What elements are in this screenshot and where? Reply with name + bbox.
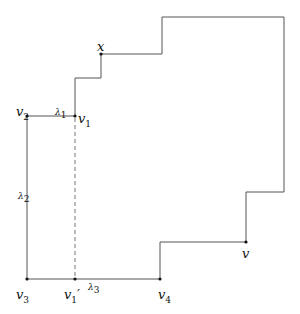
- vertex-v1prime-dot: [73, 277, 76, 280]
- label-v4: v4: [158, 288, 171, 305]
- label-v2: v2: [16, 105, 29, 122]
- label-v1-prime: v1′: [64, 288, 80, 305]
- vertex-v4-dot: [158, 277, 161, 280]
- label-v1: v1: [78, 112, 91, 129]
- vertex-v-dot: [244, 240, 247, 243]
- label-lambda2: λ2: [18, 192, 29, 204]
- vertex-v1-dot: [73, 114, 76, 117]
- label-x: x: [97, 40, 104, 53]
- staircase-boundary: [75, 17, 284, 279]
- diagram-canvas: x v1 v2 λ1 λ2 λ3 v3 v1′ v4 v: [0, 0, 300, 314]
- vertex-v3-dot: [25, 277, 28, 280]
- label-lambda3: λ3: [88, 283, 99, 295]
- label-v: v: [242, 247, 249, 260]
- label-v3: v3: [16, 288, 29, 305]
- staircase-polygon-diagram: [0, 0, 300, 314]
- label-lambda1: λ1: [55, 108, 66, 120]
